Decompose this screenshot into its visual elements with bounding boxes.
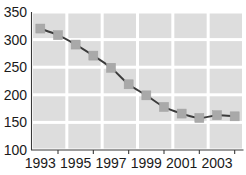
grid-block bbox=[33, 124, 65, 149]
grid-block bbox=[33, 96, 65, 121]
x-tick-label: 2001 bbox=[166, 155, 197, 171]
x-tick-label: 1993 bbox=[25, 155, 56, 171]
data-point-marker bbox=[230, 112, 239, 121]
grid-block bbox=[104, 41, 136, 66]
data-point-marker bbox=[177, 109, 186, 118]
data-point-marker bbox=[213, 111, 222, 120]
y-tick-label: 150 bbox=[4, 114, 28, 130]
grid-block bbox=[33, 69, 65, 94]
data-point-marker bbox=[54, 31, 63, 40]
y-axis-tick-labels: 100150200250300350 bbox=[4, 4, 28, 158]
data-point-marker bbox=[195, 113, 204, 122]
data-point-marker bbox=[107, 63, 116, 72]
grid-block bbox=[68, 96, 100, 121]
x-tick-label: 1997 bbox=[95, 155, 126, 171]
grid-block bbox=[210, 124, 242, 149]
x-axis-tick-marks bbox=[58, 150, 235, 154]
grid-block bbox=[33, 41, 65, 66]
data-point-marker bbox=[36, 24, 45, 33]
grid-block bbox=[174, 14, 206, 39]
grid-block bbox=[68, 124, 100, 149]
y-tick-label: 250 bbox=[4, 59, 28, 75]
grid-block bbox=[139, 14, 171, 39]
x-axis-tick-labels: 199319951997199920012003 bbox=[25, 155, 233, 171]
x-tick-label: 1995 bbox=[60, 155, 91, 171]
chart-gridblocks bbox=[33, 14, 242, 149]
grid-block bbox=[104, 14, 136, 39]
data-point-marker bbox=[124, 80, 133, 89]
grid-block bbox=[174, 69, 206, 94]
grid-block bbox=[210, 41, 242, 66]
line-chart: 100150200250300350 199319951997199920012… bbox=[0, 0, 246, 175]
grid-block bbox=[210, 14, 242, 39]
data-point-marker bbox=[89, 51, 98, 60]
grid-block bbox=[139, 124, 171, 149]
grid-block bbox=[174, 124, 206, 149]
data-point-marker bbox=[142, 91, 151, 100]
grid-block bbox=[174, 41, 206, 66]
y-tick-label: 300 bbox=[4, 32, 28, 48]
x-tick-label: 2003 bbox=[201, 155, 232, 171]
y-tick-label: 350 bbox=[4, 4, 28, 20]
data-point-marker bbox=[71, 40, 80, 49]
grid-block bbox=[139, 41, 171, 66]
grid-block bbox=[68, 14, 100, 39]
grid-block bbox=[68, 69, 100, 94]
grid-block bbox=[104, 96, 136, 121]
y-tick-label: 200 bbox=[4, 87, 28, 103]
y-tick-label: 100 bbox=[4, 142, 28, 158]
grid-block bbox=[104, 124, 136, 149]
grid-block bbox=[210, 69, 242, 94]
data-point-marker bbox=[160, 102, 169, 111]
grid-block bbox=[139, 69, 171, 94]
x-tick-label: 1999 bbox=[131, 155, 162, 171]
chart-container: 100150200250300350 199319951997199920012… bbox=[0, 0, 246, 175]
